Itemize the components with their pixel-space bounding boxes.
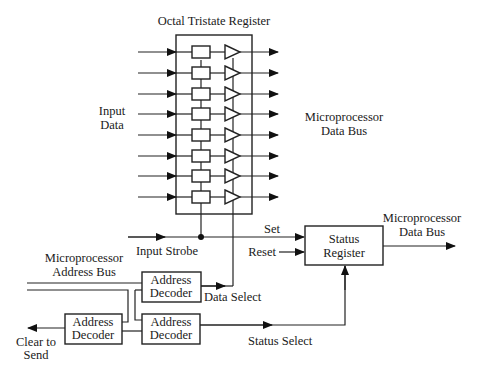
status-data-bus-label-2: Data Bus [399, 225, 445, 239]
decoder-top-label-2: Decoder [150, 286, 193, 300]
data-bus-label-1: Microprocessor [305, 110, 384, 124]
tristate-register-diagram: Octal Tristate Register Input Data Micro… [0, 0, 486, 375]
status-register-label-1: Status [329, 232, 360, 246]
address-bus-branch [135, 290, 142, 320]
junction-dot [198, 234, 204, 240]
data-select-label: Data Select [204, 290, 262, 304]
flip-flop [192, 191, 210, 203]
input-data-label-1: Input [99, 104, 126, 118]
flip-flop [192, 170, 210, 182]
decoder-left-label-1: Address [73, 315, 114, 329]
address-bus-label-2: Address Bus [52, 265, 116, 279]
decoder-top-label-1: Address [151, 273, 192, 287]
reset-label: Reset [248, 245, 276, 259]
clear-to-send-label-2: Send [24, 348, 50, 362]
input-data-label-2: Data [100, 118, 124, 132]
flip-flop [192, 129, 210, 141]
decoder-bottom-label-2: Decoder [150, 328, 193, 342]
decoder-left-label-2: Decoder [72, 328, 115, 342]
status-register-label-2: Register [323, 246, 365, 260]
status-select-label: Status Select [248, 334, 313, 348]
address-bus-label-1: Microprocessor [45, 251, 124, 265]
flip-flop [192, 88, 210, 100]
flip-flop [192, 67, 210, 79]
octal-register-box [176, 35, 252, 214]
decoder-bottom-label-1: Address [151, 315, 192, 329]
set-label: Set [264, 222, 281, 236]
input-strobe-label: Input Strobe [136, 244, 199, 258]
register-title: Octal Tristate Register [158, 14, 271, 28]
flip-flop [192, 108, 210, 120]
status-data-bus-label-1: Microprocessor [383, 211, 462, 225]
data-bus-label-2: Data Bus [321, 124, 367, 138]
flip-flop [192, 150, 210, 162]
flip-flop [192, 46, 210, 58]
clear-to-send-label-1: Clear to [16, 335, 56, 349]
